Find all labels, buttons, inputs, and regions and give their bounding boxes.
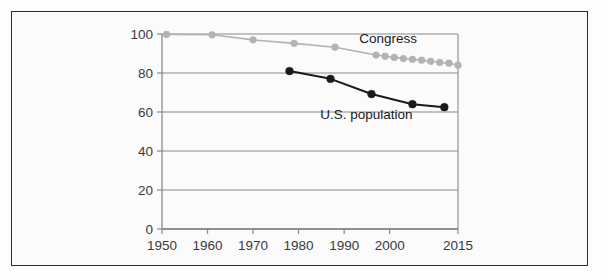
data-point: [163, 31, 170, 38]
y-axis-tick-labels: 020406080100: [130, 27, 153, 237]
data-point: [373, 52, 380, 59]
data-point: [250, 36, 257, 43]
data-point: [400, 55, 407, 62]
x-axis-tick-label: 1950: [147, 238, 177, 253]
y-axis-tick-label: 100: [130, 27, 153, 42]
chart-frame: 020406080100 195019601970198019902000201…: [11, 11, 588, 266]
data-point: [368, 90, 376, 98]
data-point: [332, 44, 339, 51]
data-point: [391, 54, 398, 61]
series-line: [290, 71, 445, 107]
series-label: Congress: [359, 31, 417, 46]
x-axis-tick-label: 2000: [375, 238, 405, 253]
x-axis-tick-label: 1960: [193, 238, 223, 253]
data-point: [382, 53, 389, 60]
y-axis-tick-label: 40: [138, 144, 153, 159]
gridlines: [162, 34, 458, 229]
y-axis-tick-label: 20: [138, 183, 153, 198]
y-axis-ticks: [157, 34, 162, 229]
x-axis-tick-label: 1990: [329, 238, 359, 253]
data-point: [418, 57, 425, 64]
x-axis-tick-label: 2015: [443, 238, 473, 253]
data-point: [209, 31, 216, 38]
data-point: [291, 40, 298, 47]
y-axis-tick-label: 0: [145, 222, 153, 237]
data-point: [436, 59, 443, 66]
data-point: [286, 67, 294, 75]
x-axis-tick-label: 1970: [238, 238, 268, 253]
y-axis-tick-label: 60: [138, 105, 153, 120]
series-label: U.S. population: [320, 107, 412, 122]
data-point: [455, 62, 462, 69]
figure-canvas: 020406080100 195019601970198019902000201…: [0, 0, 608, 280]
x-axis-tick-label: 1980: [284, 238, 314, 253]
data-point: [445, 60, 452, 67]
data-point: [440, 103, 448, 111]
line-chart: 020406080100 195019601970198019902000201…: [12, 12, 586, 264]
data-point: [409, 56, 416, 63]
x-axis-ticks: [162, 229, 458, 234]
x-axis-tick-labels: 1950196019701980199020002015: [147, 238, 473, 253]
y-axis-tick-label: 80: [138, 66, 153, 81]
series-u-s-population: [286, 67, 449, 111]
data-point: [327, 75, 335, 83]
data-point: [427, 58, 434, 65]
